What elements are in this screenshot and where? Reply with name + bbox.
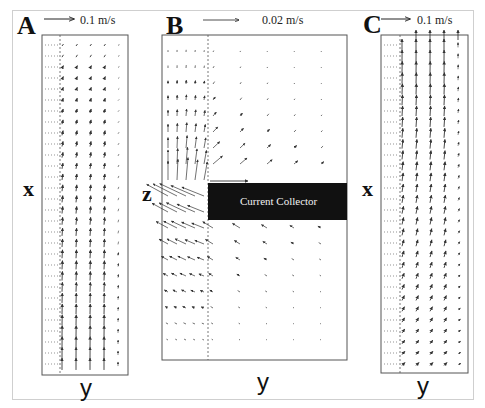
panel-a-vector-field: [45, 44, 120, 370]
panel-c-vector-field: [384, 30, 461, 366]
panel-c-box: [381, 35, 468, 373]
current-collector-label: Current Collector: [240, 196, 317, 207]
panel-a-box: [42, 35, 128, 375]
